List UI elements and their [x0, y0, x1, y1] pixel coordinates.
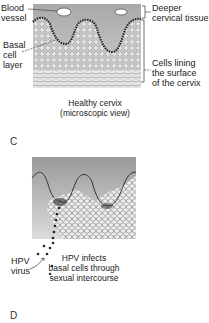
label-line: sexual intercourse [46, 273, 122, 283]
label-hpv-infects: HPV infects basal cells through sexual i… [46, 253, 122, 283]
label-blood-vessel: Blood vessel [1, 3, 27, 23]
label-line: Deeper [152, 3, 209, 13]
panel-letter-d: D [10, 310, 17, 321]
label-line: cell [3, 50, 26, 60]
label-hpv-virus: HPV virus [11, 256, 30, 276]
label-line: Cells lining [152, 58, 201, 68]
panel-letter-c: C [10, 136, 17, 147]
label-basal-layer: Basal cell layer [3, 40, 26, 70]
label-line: the surface [152, 68, 201, 78]
label-line: Blood [1, 3, 27, 13]
label-line: basal cells through [46, 263, 122, 273]
hpv-infection-diagram [0, 150, 209, 260]
label-line: HPV infects [46, 253, 122, 263]
caption-healthy-cervix: Healthy cervix (microscopic view) [40, 98, 150, 118]
label-line: of the cervix [152, 78, 201, 88]
label-line: HPV [11, 256, 30, 266]
label-deeper-tissue: Deeper cervical tissue [152, 3, 209, 23]
label-line: cervical tissue [152, 13, 209, 23]
caption-line: (microscopic view) [40, 108, 150, 118]
label-line: Basal [3, 40, 26, 50]
label-line: virus [11, 266, 30, 276]
label-surface-cells: Cells lining the surface of the cervix [152, 58, 201, 88]
label-line: vessel [1, 13, 27, 23]
caption-line: Healthy cervix [40, 98, 150, 108]
label-line: layer [3, 60, 26, 70]
